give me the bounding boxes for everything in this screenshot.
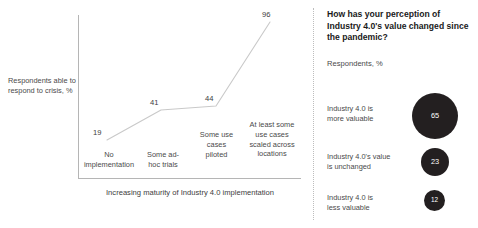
bubble-label-unchanged-line1: Industry 4.0's value (327, 152, 409, 162)
bubble-label-less-valuable-line2: less valuable (327, 203, 409, 213)
x-category-0: No implementation (79, 150, 139, 170)
bubble-label-more-valuable: Industry 4.0 is more valuable (327, 104, 409, 124)
data-label-2: 44 (205, 94, 213, 103)
bubble-label-less-valuable: Industry 4.0 is less valuable (327, 193, 409, 213)
bubble-label-more-valuable-line2: more valuable (327, 114, 409, 124)
x-category-2-line3: piloted (192, 150, 241, 160)
bubble-label-unchanged-line2: is unchanged (327, 162, 409, 172)
bubble-label-less-valuable-line1: Industry 4.0 is (327, 193, 409, 203)
x-category-2: Some use cases piloted (192, 130, 241, 159)
bubble-value-more-valuable: 65 (431, 112, 439, 119)
bubble-chart-title: How has your perception of Industry 4.0'… (327, 9, 475, 44)
bubble-row-unchanged: Industry 4.0's value is unchanged 23 (327, 145, 478, 183)
bubble-value-unchanged: 23 (431, 158, 439, 165)
bubble-row-less-valuable: Industry 4.0 is less valuable 12 (327, 188, 478, 222)
exhibit-root: Respondents able to respond to crisis, %… (0, 0, 478, 228)
data-label-3: 96 (262, 10, 270, 19)
x-category-1-line2: hoc trials (137, 160, 189, 170)
line-chart-panel: Respondents able to respond to crisis, %… (0, 0, 313, 228)
bubble-more-valuable: 65 (412, 93, 458, 139)
x-category-0-line1: No (79, 150, 139, 160)
x-category-0-line2: implementation (79, 160, 139, 170)
x-axis-title: Increasing maturity of Industry 4.0 impl… (78, 188, 302, 197)
bubble-value-less-valuable: 12 (431, 197, 438, 203)
bubble-label-more-valuable-line1: Industry 4.0 is (327, 104, 409, 114)
bubble-chart-subtitle: Respondents, % (327, 59, 467, 68)
x-category-3-line4: locations (241, 149, 303, 159)
x-category-3: At least some use cases scaled across lo… (241, 120, 303, 159)
x-category-2-line2: cases (192, 140, 241, 150)
x-category-2-line1: Some use (192, 130, 241, 140)
data-label-1: 41 (150, 98, 158, 107)
x-category-3-line1: At least some (241, 120, 303, 130)
x-category-1: Some ad- hoc trials (137, 150, 189, 170)
x-category-3-line2: use cases (241, 130, 303, 140)
bubble-label-unchanged: Industry 4.0's value is unchanged (327, 152, 409, 172)
panel-divider (313, 8, 314, 220)
bubble-chart-panel: How has your perception of Industry 4.0'… (327, 0, 478, 228)
bubble-less-valuable: 12 (424, 190, 445, 211)
x-category-3-line3: scaled across (241, 140, 303, 150)
data-label-0: 19 (93, 128, 101, 137)
bubble-unchanged: 23 (421, 148, 449, 176)
bubble-row-more-valuable: Industry 4.0 is more valuable 65 (327, 90, 478, 144)
x-axis-line (78, 178, 301, 179)
plot-area: 19 41 44 96 No implementation Some ad- h… (0, 0, 313, 228)
x-category-1-line1: Some ad- (137, 150, 189, 160)
